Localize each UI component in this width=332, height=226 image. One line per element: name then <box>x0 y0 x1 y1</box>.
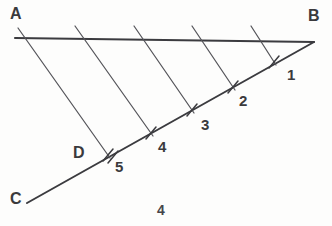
figure-canvas <box>0 0 332 226</box>
vertex-label-d: D <box>73 145 85 161</box>
parallel-line-5 <box>251 26 276 65</box>
segment-ab <box>15 38 314 42</box>
geometry-figure: A B C D 1 2 3 4 5 4 <box>0 0 332 226</box>
division-label-1: 1 <box>287 67 295 82</box>
page-number: 4 <box>157 203 165 217</box>
parallel-line-1 <box>18 28 110 158</box>
division-label-5: 5 <box>115 159 123 174</box>
vertex-label-a: A <box>10 6 22 22</box>
division-label-3: 3 <box>201 117 209 132</box>
parallel-line-4 <box>192 26 235 90</box>
vertex-label-c: C <box>10 191 22 207</box>
division-label-2: 2 <box>239 93 247 108</box>
parallel-line-2 <box>75 26 153 136</box>
vertex-label-b: B <box>308 8 320 24</box>
division-label-4: 4 <box>158 139 166 154</box>
